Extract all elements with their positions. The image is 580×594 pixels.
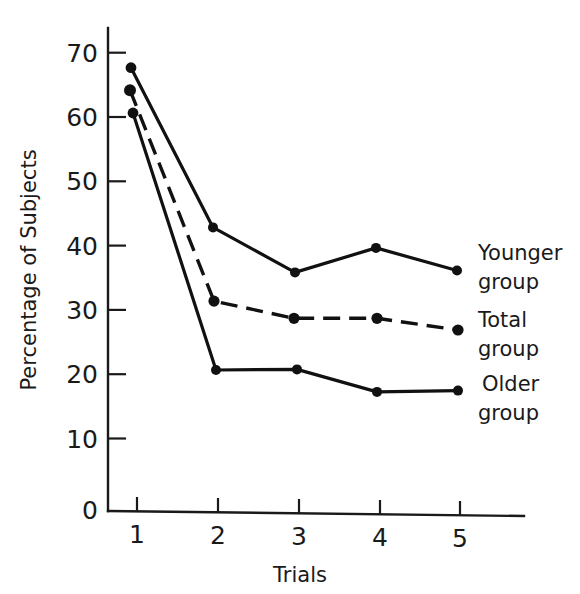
older-group-label-line2: group [478, 401, 539, 425]
younger-group-point-4 [371, 243, 381, 253]
y-tick-label-10: 10 [66, 425, 98, 454]
older-group-point-2 [211, 365, 221, 375]
y-tick-label-50: 50 [66, 167, 98, 196]
series-total-group [124, 84, 464, 335]
y-tick-label-30: 30 [66, 296, 98, 325]
younger-group-label-line2: group [478, 270, 539, 294]
y-tick-label-0: 0 [82, 496, 98, 525]
older-group-point-5 [453, 386, 463, 396]
x-tick-label-3: 3 [291, 522, 307, 551]
older-group-point-1 [128, 108, 139, 119]
total-group-label-line2: group [478, 337, 539, 361]
total-group-point-4 [371, 313, 382, 324]
y-tick-label-70: 70 [66, 39, 98, 68]
x-tick-label-4: 4 [372, 523, 388, 552]
younger-group-point-2 [208, 222, 218, 232]
older-group-line [133, 113, 458, 392]
older-group-point-3 [292, 364, 302, 374]
y-tick-label-20: 20 [66, 360, 98, 389]
total-group-point-2 [208, 296, 219, 307]
x-tick-label-1: 1 [129, 520, 145, 549]
total-group-point-5 [452, 324, 463, 335]
younger-group-line [131, 68, 457, 273]
y-tick-marks [108, 53, 126, 439]
x-tick-label-2: 2 [210, 521, 226, 550]
y-axis-title: Percentage of Subjects [17, 149, 41, 390]
y-tick-label-40: 40 [66, 232, 98, 261]
total-group-line [130, 90, 458, 330]
x-axis-title: Trials [272, 563, 327, 587]
total-group-label-line1: Total [477, 308, 527, 332]
y-tick-labels: 70 60 50 40 30 20 10 0 [66, 39, 98, 525]
younger-group-point-1 [126, 62, 137, 73]
x-tick-labels: 1 2 3 4 5 [129, 520, 468, 553]
younger-group-point-3 [290, 267, 300, 277]
series-older-group [128, 108, 463, 397]
total-group-point-1 [124, 84, 136, 96]
y-tick-label-60: 60 [66, 103, 98, 132]
chart-figure: 70 60 50 40 30 20 10 0 1 2 3 4 5 Trials … [0, 0, 580, 594]
series-label-total: Total group [477, 308, 539, 361]
series-label-older: Older group [478, 372, 540, 425]
younger-group-point-5 [452, 266, 462, 276]
older-group-label-line1: Older [482, 372, 540, 396]
x-tick-label-5: 5 [452, 524, 468, 553]
line-chart-plot: 70 60 50 40 30 20 10 0 1 2 3 4 5 Trials … [0, 0, 580, 594]
series-label-younger: Younger group [477, 241, 563, 294]
x-axis-line [108, 511, 524, 516]
younger-group-label-line1: Younger [477, 241, 563, 265]
older-group-point-4 [372, 387, 382, 397]
total-group-point-3 [288, 313, 299, 324]
